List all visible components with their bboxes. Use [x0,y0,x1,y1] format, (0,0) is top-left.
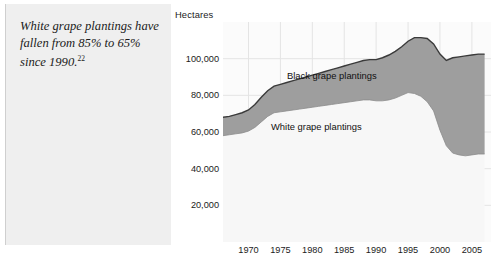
caption-sentence: White grape plantings have fallen from 8… [20,19,159,69]
x-tick-1995: 1995 [398,245,418,255]
caption-footnote-marker: 22 [77,54,85,63]
y-tick-60000: 60,000 [191,127,219,137]
caption-text: White grape plantings have fallen from 8… [20,18,168,71]
x-axis-tick-labels: 19701975198019851990199520002005 [223,245,491,259]
x-tick-2005: 2005 [462,245,482,255]
chart-panel: Hectares 20,00040,00060,00080,000100,000… [175,4,495,262]
y-tick-20000: 20,000 [191,200,219,210]
y-tick-40000: 40,000 [191,164,219,174]
area-chart-svg [223,22,491,242]
x-tick-1975: 1975 [270,245,290,255]
y-axis-title: Hectares [175,9,213,20]
y-tick-100000: 100,000 [186,54,219,64]
figure-root: White grape plantings have fallen from 8… [0,0,499,268]
y-tick-80000: 80,000 [191,90,219,100]
y-axis-tick-labels: 20,00040,00060,00080,000100,000 [175,22,219,242]
black-grape-label: Black grape plantings [287,70,377,81]
plot-area: Black grape plantings White grape planti… [223,22,491,242]
x-tick-1985: 1985 [334,245,354,255]
x-tick-1980: 1980 [302,245,322,255]
x-tick-1970: 1970 [238,245,258,255]
white-grape-label: White grape plantings [271,121,362,132]
caption-panel: White grape plantings have fallen from 8… [5,4,171,245]
x-tick-1990: 1990 [366,245,386,255]
x-tick-2000: 2000 [430,245,450,255]
